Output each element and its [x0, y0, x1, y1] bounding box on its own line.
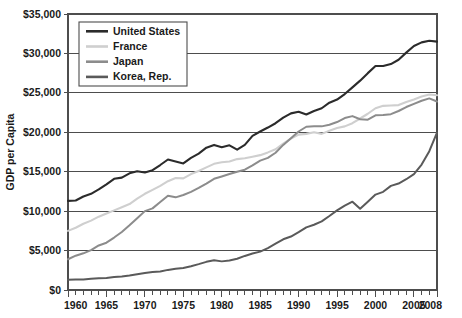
x-tick-label: 1995	[325, 299, 349, 311]
legend-label-united-states: United States	[113, 25, 180, 37]
y-tick-label: $35,000	[23, 8, 61, 20]
x-tick-label: 2008	[419, 299, 443, 311]
y-axis-title: GDP per Capita	[4, 113, 16, 190]
y-tick-label: $25,000	[23, 86, 61, 98]
y-tick-label: $10,000	[23, 205, 61, 217]
chart-legend: United StatesFranceJapanKorea, Rep.	[79, 22, 187, 86]
x-tick-label: 1975	[172, 299, 196, 311]
legend-label-france: France	[113, 40, 148, 52]
legend-label-japan: Japan	[113, 55, 143, 67]
y-tick-label: $0	[49, 284, 61, 296]
y-tick-label: $20,000	[23, 126, 61, 138]
y-tick-label: $15,000	[23, 165, 61, 177]
y-tick-label: $5,000	[29, 244, 61, 256]
x-tick-label: 2000	[364, 299, 388, 311]
x-tick-label: 1970	[133, 299, 157, 311]
x-tick-label: 1990	[287, 299, 311, 311]
x-tick-label: 1985	[249, 299, 273, 311]
x-tick-label: 1965	[95, 299, 119, 311]
x-tick-label: 1960	[64, 299, 88, 311]
y-tick-label: $30,000	[23, 47, 61, 59]
x-tick-label: 1980	[210, 299, 234, 311]
gdp-per-capita-line-chart: $0$5,000$10,000$15,000$20,000$25,000$30,…	[0, 0, 462, 318]
chart-background	[0, 0, 462, 318]
chart-svg: $0$5,000$10,000$15,000$20,000$25,000$30,…	[0, 0, 462, 318]
legend-label-korea-rep: Korea, Rep.	[113, 70, 171, 82]
